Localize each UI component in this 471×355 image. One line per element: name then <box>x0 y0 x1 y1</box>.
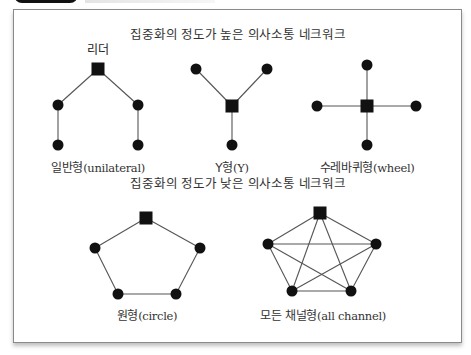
label-korean: Y형 <box>215 161 233 175</box>
member-node-icon <box>113 289 124 300</box>
member-node-icon <box>53 100 64 111</box>
member-node-icon <box>371 239 382 250</box>
label-english: (circle) <box>138 309 177 323</box>
edge-line <box>268 213 320 244</box>
edge-line <box>320 213 351 291</box>
network-all-channel <box>263 207 382 297</box>
network-circle <box>90 212 206 300</box>
edge-line <box>95 218 146 248</box>
member-node-icon <box>312 101 323 112</box>
network-wheel <box>312 60 422 151</box>
label-english: (all channel) <box>317 309 386 323</box>
label-unilateral: 일반형(unilateral) <box>51 158 145 175</box>
edge-line <box>320 213 376 244</box>
member-node-icon <box>263 239 274 250</box>
member-node-icon <box>346 286 357 297</box>
edge-line <box>176 248 200 294</box>
edge-line <box>292 213 320 291</box>
label-circle: 원형(circle) <box>117 306 178 323</box>
member-node-icon <box>133 100 144 111</box>
label-korean: 일반형 <box>51 161 83 175</box>
label-korean: 수레바퀴형 <box>320 161 374 175</box>
network-diagram <box>0 0 471 355</box>
network-y <box>191 64 273 151</box>
leader-node-icon <box>314 207 327 220</box>
member-node-icon <box>227 140 238 151</box>
leader-node-icon <box>92 63 105 76</box>
member-node-icon <box>90 243 101 254</box>
member-node-icon <box>362 140 373 151</box>
label-english: (Y) <box>233 161 249 175</box>
network-unilateral <box>53 63 144 151</box>
label-all-channel: 모든 채널형(all channel) <box>260 306 386 323</box>
label-korean: 원형 <box>117 309 138 323</box>
member-node-icon <box>171 289 182 300</box>
leader-annotation: 리더 <box>87 40 109 57</box>
label-english: (unilateral) <box>83 161 145 175</box>
edge-line <box>95 248 118 294</box>
edge-line <box>146 218 200 248</box>
label-korean: 모든 채널형 <box>260 309 317 323</box>
label-wheel: 수레바퀴형(wheel) <box>320 158 415 175</box>
leader-node-icon <box>361 100 374 113</box>
member-node-icon <box>191 64 202 75</box>
member-node-icon <box>362 60 373 71</box>
member-node-icon <box>195 243 206 254</box>
member-node-icon <box>287 286 298 297</box>
member-node-icon <box>133 140 144 151</box>
leader-node-icon <box>226 100 239 113</box>
leader-node-icon <box>140 212 153 225</box>
member-node-icon <box>53 140 64 151</box>
label-english: (wheel) <box>373 161 414 175</box>
label-y: Y형(Y) <box>215 158 248 175</box>
member-node-icon <box>411 101 422 112</box>
member-node-icon <box>262 64 273 75</box>
